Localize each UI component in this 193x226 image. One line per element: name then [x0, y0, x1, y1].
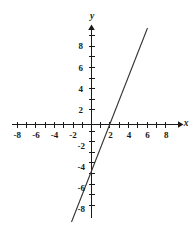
y-tick-label-neg2: -2	[78, 141, 86, 151]
y-axis-label: y	[89, 11, 95, 21]
y-tick-label-pos4: 4	[79, 84, 84, 94]
y-tick-label-pos2: 2	[79, 105, 84, 115]
x-tick-label-neg2: -2	[69, 130, 77, 140]
x-tick-label-neg6: -6	[32, 130, 40, 140]
graph-figure: -8 -6 -4 -2 2 4 6 8 8 6 4 2 -2 -4 -6 -8 …	[0, 0, 193, 226]
y-tick-label-neg4: -4	[78, 162, 86, 172]
x-tick-label-neg8: -8	[14, 130, 22, 140]
y-tick-label-neg8: -8	[78, 204, 86, 214]
y-axis-arrow-icon	[88, 25, 95, 31]
x-tick-label-pos2: 2	[108, 130, 113, 140]
coordinate-plane-svg: -8 -6 -4 -2 2 4 6 8 8 6 4 2 -2 -4 -6 -8 …	[0, 0, 193, 226]
x-tick-label-pos6: 6	[145, 130, 150, 140]
y-tick-label-pos6: 6	[79, 63, 84, 73]
y-tick-label-neg6: -6	[78, 183, 86, 193]
x-tick-label-pos4: 4	[127, 130, 132, 140]
x-tick-label-neg4: -4	[51, 130, 59, 140]
y-tick-label-pos8: 8	[79, 41, 84, 51]
x-tick-label-pos8: 8	[164, 130, 169, 140]
x-axis-label: x	[183, 118, 189, 128]
